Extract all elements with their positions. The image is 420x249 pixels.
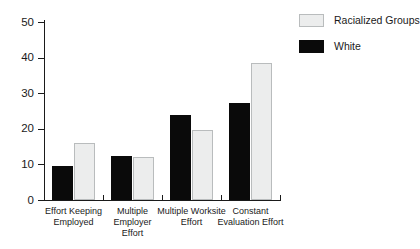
bar-white xyxy=(52,166,73,200)
plot-area xyxy=(44,22,280,200)
x-axis-tick xyxy=(280,195,281,201)
bar-white xyxy=(229,103,250,200)
y-axis-tick-label: 0 xyxy=(28,195,34,207)
bar-racialized-groups xyxy=(133,157,154,200)
bar-racialized-groups xyxy=(251,63,272,200)
category-label-line: Constant xyxy=(215,206,286,217)
chart-legend: Racialized Groups White xyxy=(299,14,411,66)
y-axis-tick-label: 40 xyxy=(21,52,34,64)
x-axis-category-label: ConstantEvaluation Effort xyxy=(215,206,286,228)
y-axis-tick-label: 10 xyxy=(21,159,34,171)
category-label-line: Evaluation Effort xyxy=(215,217,286,228)
bar-racialized-groups xyxy=(74,143,95,200)
bar-white xyxy=(111,156,132,200)
legend-item-white: White xyxy=(299,40,411,53)
y-axis-tick-label: 30 xyxy=(21,88,34,100)
legend-swatch-racialized-groups xyxy=(299,14,324,27)
y-axis-tick-label: 50 xyxy=(21,17,34,29)
y-axis-tick-label: 20 xyxy=(21,124,34,136)
legend-label-racialized-groups: Racialized Groups xyxy=(334,15,420,26)
y-axis-tick: 0 xyxy=(38,200,44,201)
legend-item-racialized-groups: Racialized Groups xyxy=(299,14,411,27)
bar-white xyxy=(170,115,191,200)
bar-racialized-groups xyxy=(192,130,213,200)
legend-label-white: White xyxy=(334,41,361,52)
category-label-line: Effort xyxy=(97,228,168,239)
legend-swatch-white xyxy=(299,40,324,53)
